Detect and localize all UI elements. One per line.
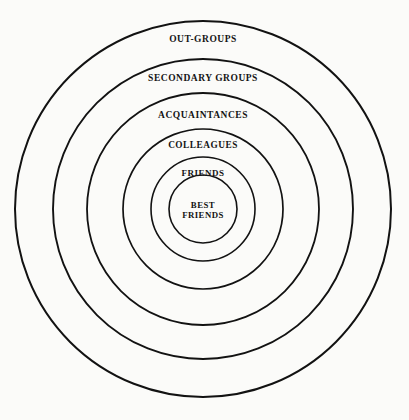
concentric-circles-diagram: OUT-GROUPS SECONDARY GROUPS ACQUAINTANCE… <box>0 0 409 420</box>
ring-circle-friends <box>151 157 255 261</box>
rings-svg <box>0 0 409 420</box>
ring-circle-acquaintances <box>87 93 319 325</box>
ring-circle-colleagues <box>123 129 283 289</box>
ring-circle-secondary-groups <box>53 59 353 359</box>
ring-circle-best-friends <box>169 175 237 243</box>
ring-circle-out-groups <box>15 21 391 397</box>
